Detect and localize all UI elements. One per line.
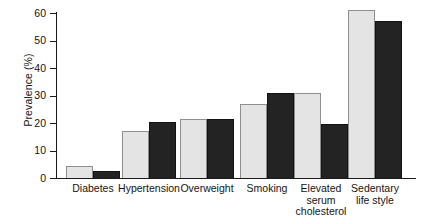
bar	[149, 122, 176, 178]
bar	[207, 119, 234, 178]
bar	[294, 93, 321, 178]
bar	[321, 124, 348, 178]
bar	[240, 104, 267, 178]
bar	[66, 166, 93, 178]
bar	[267, 93, 294, 178]
bar	[375, 21, 402, 178]
x-axis-label-line: cholesterol	[276, 206, 366, 218]
bar	[93, 171, 120, 178]
x-axis-label-line: Sedentary	[330, 183, 420, 195]
x-axis-label: Sedentarylife style	[330, 183, 420, 206]
bar	[122, 131, 149, 178]
bar	[180, 119, 207, 178]
x-axis-label-line: life style	[330, 195, 420, 207]
bar	[348, 10, 375, 178]
bar-chart: Prevalence (%) 0102030405060 DiabetesHyp…	[0, 0, 430, 224]
